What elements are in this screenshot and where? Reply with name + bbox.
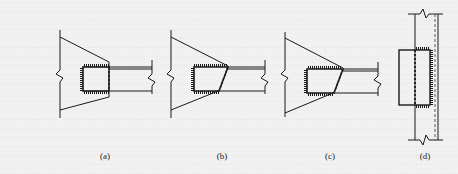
weld-hatch [307,66,342,69]
panel-d-drawing [399,9,443,145]
beam-end-box [307,69,343,93]
panel-label-b: (b) [217,151,228,161]
weld-hatch [304,69,307,93]
break-symbol-icon [420,135,429,145]
break-symbol-icon [167,70,174,82]
beam-end-box [83,67,109,91]
connection-detail-figure [0,0,458,174]
panel-a-drawing [56,30,155,118]
weld-hatch [430,50,433,105]
panel-label-d: (d) [420,151,431,161]
weld-hatch [83,64,109,67]
break-symbol-icon [374,76,381,88]
panel-label-a: (a) [100,151,110,161]
break-symbol-icon [261,74,268,86]
weld-hatch [83,91,109,94]
weld-hatch [194,91,219,94]
haunch-top-line [285,38,343,68]
weld-hatch [307,93,334,96]
panel-c-drawing [281,32,381,117]
haunch-top-line [60,37,109,62]
panel-label-c: (c) [325,151,335,161]
haunch-bottom-line [60,97,109,110]
break-symbol-icon [56,70,63,82]
weld-hatch [191,67,194,91]
break-symbol-icon [281,70,288,82]
weld-hatch [194,64,227,67]
weld-hatch [415,105,430,108]
break-symbol-icon [420,9,429,18]
weld-hatch [80,67,83,91]
weld-hatch [415,47,430,50]
break-symbol-icon [148,74,155,86]
panel-b-drawing [167,30,268,118]
haunch-top-line [171,37,228,66]
